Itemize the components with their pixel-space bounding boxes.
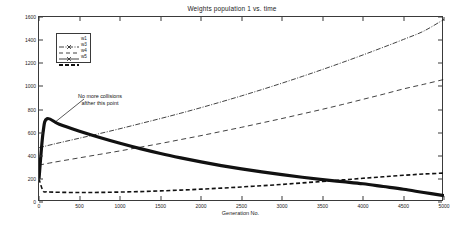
x-axis-label: Generation No.: [38, 210, 443, 216]
x-tick-mark: [120, 17, 121, 21]
y-tick-mark: [438, 132, 442, 133]
y-tick-mark: [39, 17, 43, 18]
x-tick-mark: [120, 196, 121, 200]
x-tick-label: 3000: [276, 203, 287, 209]
y-tick-mark: [438, 109, 442, 110]
annotation-line-1: No more collisions: [78, 93, 122, 100]
chart-legend: w1 w3 w4 w5: [56, 33, 91, 63]
y-tick-mark: [438, 40, 442, 41]
series-line-w5: [39, 119, 444, 196]
x-tick-mark: [79, 17, 80, 21]
x-tick-mark: [322, 196, 323, 200]
x-tick-mark: [363, 196, 364, 200]
x-tick-mark: [282, 196, 283, 200]
y-tick-label: 600: [28, 130, 36, 136]
series-line-w4: [39, 173, 444, 192]
x-tick-label: 3500: [317, 203, 328, 209]
x-tick-label: 2000: [195, 203, 206, 209]
y-tick-label: 0: [33, 199, 36, 205]
x-tick-mark: [403, 17, 404, 21]
annotation-text: No more collisions afther this point: [78, 93, 122, 107]
x-tick-mark: [403, 196, 404, 200]
x-tick-mark: [322, 17, 323, 21]
y-tick-label: 400: [28, 153, 36, 159]
x-tick-mark: [39, 17, 40, 21]
chart-figure: Weights population 1 vs. time Weight val…: [0, 0, 464, 239]
x-tick-mark: [241, 196, 242, 200]
x-tick-mark: [201, 17, 202, 21]
y-tick-mark: [39, 40, 43, 41]
series-line-w1: [39, 19, 444, 147]
x-tick-label: 500: [75, 203, 83, 209]
y-tick-mark: [39, 63, 43, 64]
x-tick-mark: [201, 196, 202, 200]
chart-title: Weights population 1 vs. time: [0, 5, 464, 12]
x-tick-label: 1000: [114, 203, 125, 209]
annotation-line-2: afther this point: [78, 100, 122, 107]
y-tick-mark: [39, 86, 43, 87]
legend-swatch-w5: [59, 54, 79, 60]
x-tick-mark: [160, 196, 161, 200]
legend-label-w5: w5: [81, 54, 87, 60]
y-tick-mark: [39, 178, 43, 179]
x-tick-mark: [79, 196, 80, 200]
x-tick-mark: [444, 17, 445, 21]
x-tick-label: 4500: [398, 203, 409, 209]
y-tick-label: 1000: [25, 83, 36, 89]
y-tick-label: 800: [28, 107, 36, 113]
plot-lines: [39, 17, 444, 202]
x-tick-mark: [282, 17, 283, 21]
plot-area: 0200400600800100012001400160005001000150…: [38, 16, 443, 201]
y-tick-label: 1600: [25, 14, 36, 20]
x-tick-mark: [363, 17, 364, 21]
y-tick-mark: [438, 63, 442, 64]
y-tick-label: 200: [28, 176, 36, 182]
x-tick-mark: [39, 196, 40, 200]
x-tick-label: 0: [38, 203, 41, 209]
y-tick-mark: [39, 109, 43, 110]
x-tick-label: 4000: [357, 203, 368, 209]
legend-item: w5: [59, 54, 87, 60]
x-tick-label: 2500: [236, 203, 247, 209]
x-tick-mark: [444, 196, 445, 200]
y-tick-mark: [438, 155, 442, 156]
x-tick-mark: [241, 17, 242, 21]
y-tick-mark: [39, 132, 43, 133]
x-tick-label: 5000: [438, 203, 449, 209]
y-tick-mark: [438, 86, 442, 87]
y-tick-label: 1400: [25, 37, 36, 43]
y-tick-label: 1200: [25, 60, 36, 66]
y-tick-mark: [39, 155, 43, 156]
y-tick-mark: [438, 17, 442, 18]
x-tick-label: 1500: [155, 203, 166, 209]
x-tick-mark: [160, 17, 161, 21]
y-tick-mark: [438, 178, 442, 179]
